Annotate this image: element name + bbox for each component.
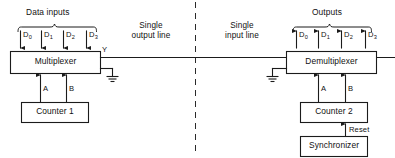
demux-pin-base-d2: D xyxy=(344,30,350,39)
synchronizer-label: Synchronizer xyxy=(301,141,368,151)
counter1-label: Counter 1 xyxy=(22,107,89,117)
reset-label: Reset xyxy=(349,125,369,135)
demux-pin-sub-d2: 2 xyxy=(350,34,353,40)
demultiplexer-label: Demultiplexer xyxy=(287,57,377,67)
demux-pin-label-d0: D0 xyxy=(299,30,308,41)
data-inputs-label: Data inputs xyxy=(26,8,69,18)
demux-ground-symbol xyxy=(267,77,279,82)
single-input-line-note: Single input line xyxy=(211,21,273,40)
outputs-label: Outputs xyxy=(312,8,342,18)
demux-pin-label-d3: D3 xyxy=(368,30,377,41)
mux-pin-label-d0: D0 xyxy=(23,30,32,41)
demux-select-label-b: B xyxy=(348,84,353,94)
demux-pin-sub-d3: 3 xyxy=(374,34,377,40)
mux-pin-base-d1: D xyxy=(44,30,50,39)
demux-pin-sub-d1: 1 xyxy=(327,34,330,40)
multiplexer-label: Multiplexer xyxy=(11,57,101,67)
mux-pin-sub-d1: 1 xyxy=(50,34,53,40)
demux-select-label-a: A xyxy=(321,84,326,94)
mux-pin-sub-d3: 3 xyxy=(95,34,98,40)
mux-pin-base-d2: D xyxy=(66,30,72,39)
demux-pin-base-d3: D xyxy=(368,30,374,39)
mux-pin-sub-d0: 0 xyxy=(29,34,32,40)
demux-pin-base-d1: D xyxy=(321,30,327,39)
demux-pin-base-d0: D xyxy=(299,30,305,39)
diagram-canvas xyxy=(0,0,395,158)
mux-pin-label-d1: D1 xyxy=(44,30,53,41)
single-input-line-note-line2: input line xyxy=(211,31,273,41)
demux-pin-sub-d0: 0 xyxy=(305,34,308,40)
mux-ground-symbol xyxy=(107,77,119,82)
mux-demux-block-diagram: Data inputs D0 D1 D2 D3 Multiplexer Y Si… xyxy=(0,0,395,158)
mux-pin-label-d2: D2 xyxy=(66,30,75,41)
mux-pin-label-d3: D3 xyxy=(89,30,98,41)
mux-pin-sub-d2: 2 xyxy=(72,34,75,40)
mux-output-pin-label: Y xyxy=(102,45,107,55)
demux-input-wire xyxy=(273,69,287,77)
single-output-line-note-line2: output line xyxy=(120,31,182,41)
demux-pin-label-d2: D2 xyxy=(344,30,353,41)
mux-pin-base-d3: D xyxy=(89,30,95,39)
single-output-line-note: Single output line xyxy=(120,21,182,40)
demux-pin-label-d1: D1 xyxy=(321,30,330,41)
single-input-line-note-line1: Single xyxy=(211,21,273,31)
mux-select-label-b: B xyxy=(69,84,74,94)
single-output-line-note-line1: Single xyxy=(120,21,182,31)
mux-pin-base-d0: D xyxy=(23,30,29,39)
mux-select-label-a: A xyxy=(43,84,48,94)
counter2-label: Counter 2 xyxy=(301,107,368,117)
